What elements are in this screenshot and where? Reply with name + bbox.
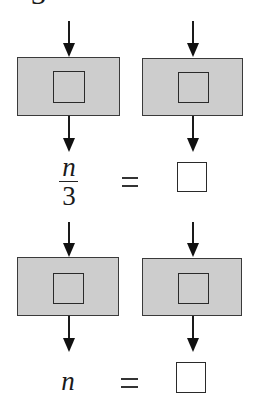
- function-machine-1a: [17, 57, 120, 116]
- answer-box-1[interactable]: [177, 162, 207, 192]
- output-arrow-line-2a: [68, 316, 70, 340]
- operation-slot-2b[interactable]: [178, 273, 209, 304]
- operation-slot-1b[interactable]: [178, 72, 209, 103]
- equals-sign-bottom: [121, 386, 138, 388]
- operation-slot-2a[interactable]: [53, 273, 84, 304]
- input-arrow-line-1a: [68, 21, 70, 45]
- function-machine-2a: [17, 257, 119, 316]
- output-arrow-line-2b: [192, 316, 194, 340]
- top-fragment-text: 3: [31, 0, 46, 9]
- answer-box-2[interactable]: [176, 362, 206, 393]
- arrow-down-icon: [187, 138, 199, 152]
- arrow-down-icon: [187, 338, 199, 352]
- input-arrow-line-2b: [192, 222, 194, 244]
- input-arrow-line-1b: [192, 21, 194, 45]
- arrow-down-icon: [63, 338, 75, 352]
- output-arrow-line-1b: [192, 116, 194, 140]
- arrow-down-icon: [63, 243, 75, 257]
- fraction-numerator: n: [59, 152, 79, 182]
- fraction-denominator: 3: [59, 182, 79, 210]
- output-arrow-line-1a: [68, 116, 70, 140]
- equals-sign-top: [121, 378, 138, 380]
- arrow-down-icon: [187, 243, 199, 257]
- top-fragment-digit: 3: [30, 0, 50, 11]
- arrow-down-icon: [187, 43, 199, 57]
- output-variable-n: n: [58, 366, 78, 396]
- input-arrow-line-2a: [68, 222, 70, 244]
- operation-slot-1a[interactable]: [53, 71, 85, 103]
- function-machine-1b: [142, 58, 243, 116]
- equals-sign-bottom: [122, 185, 138, 187]
- arrow-down-icon: [63, 138, 75, 152]
- equals-sign-top: [122, 177, 138, 179]
- arrow-down-icon: [63, 43, 75, 57]
- function-machine-2b: [142, 258, 242, 316]
